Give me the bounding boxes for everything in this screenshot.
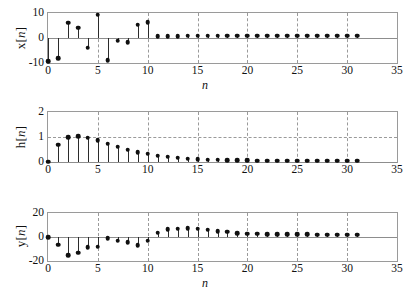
- stem-marker: [76, 134, 81, 139]
- x-axis-tick-label: 25: [292, 263, 304, 275]
- y-axis-label-y: y[n]: [13, 225, 29, 247]
- stem-marker: [106, 58, 111, 63]
- stem-marker: [325, 232, 330, 237]
- y-axis-tick-label: -20: [29, 255, 44, 267]
- stem-marker: [116, 144, 121, 149]
- stem-marker: [325, 33, 330, 38]
- x-axis-tick-label: 35: [391, 164, 403, 176]
- stem-marker: [295, 158, 300, 163]
- stem-marker: [335, 33, 340, 38]
- stem-marker: [345, 158, 350, 163]
- x-axis-tick-label: 15: [192, 263, 204, 275]
- stem-marker: [215, 229, 220, 234]
- stem-marker: [355, 232, 360, 237]
- y-axis-tick-label: 1: [38, 131, 44, 143]
- stem-marker: [116, 239, 121, 244]
- stem-marker: [305, 33, 310, 38]
- stem-marker: [46, 59, 51, 64]
- y-axis-tick-label: -10: [29, 57, 44, 69]
- stem-marker: [265, 232, 270, 237]
- panel-h: h[n] 01205101520253035 n: [0, 99, 418, 198]
- stem-marker: [295, 33, 300, 38]
- stem-marker: [275, 158, 280, 163]
- stem-line: [68, 137, 69, 162]
- stem-marker: [86, 135, 91, 140]
- stem-marker: [145, 20, 150, 25]
- x-axis-tick-label: 35: [391, 65, 403, 77]
- stem-marker: [245, 33, 250, 38]
- x-axis-tick-label: 20: [242, 263, 254, 275]
- panel-x: x[n] -1001005101520253035 n: [0, 0, 418, 99]
- stem-marker: [265, 158, 270, 163]
- x-axis-tick-label: 15: [192, 65, 204, 77]
- stem-line: [108, 144, 109, 163]
- stem-marker: [165, 34, 170, 39]
- plot-area-x: -1001005101520253035: [47, 12, 398, 64]
- stem-marker: [165, 227, 170, 232]
- x-axis-tick-label: 10: [142, 65, 154, 77]
- stem-line: [98, 140, 99, 162]
- x-axis-tick-label: 5: [95, 164, 101, 176]
- stem-marker: [225, 158, 230, 163]
- y-axis-tick-label: 2: [38, 106, 44, 118]
- stem-line: [88, 138, 89, 163]
- stem-marker: [225, 230, 230, 235]
- stem-marker: [245, 158, 250, 163]
- stem-marker: [56, 142, 61, 147]
- stem-marker: [155, 231, 160, 236]
- stem-marker: [116, 38, 121, 43]
- x-axis-tick-label: 0: [45, 65, 51, 77]
- stem-marker: [195, 157, 200, 162]
- baseline: [48, 237, 397, 238]
- stem-marker: [135, 150, 140, 155]
- stem-marker: [76, 250, 81, 255]
- stem-marker: [125, 147, 130, 152]
- stem-marker: [215, 157, 220, 162]
- stem-marker: [205, 33, 210, 38]
- x-axis-label-x: n: [202, 78, 208, 93]
- stem-marker: [145, 151, 150, 156]
- stem-marker: [275, 33, 280, 38]
- stem-marker: [265, 33, 270, 38]
- stem-marker: [355, 33, 360, 38]
- x-axis-tick-label: 20: [242, 164, 254, 176]
- stem-marker: [135, 243, 140, 248]
- y-axis-tick-label: 0: [38, 231, 44, 243]
- stem-line: [58, 145, 59, 163]
- stem-marker: [106, 236, 111, 241]
- stem-marker: [175, 34, 180, 39]
- stem-marker: [285, 33, 290, 38]
- stem-marker: [225, 33, 230, 38]
- stem-marker: [86, 45, 91, 50]
- stem-marker: [285, 158, 290, 163]
- baseline: [48, 38, 397, 39]
- stem-marker: [315, 232, 320, 237]
- x-axis-tick-label: 15: [192, 164, 204, 176]
- stem-marker: [235, 231, 240, 236]
- stem-marker: [195, 226, 200, 231]
- stem-marker: [155, 34, 160, 39]
- stem-marker: [215, 33, 220, 38]
- stem-marker: [295, 232, 300, 237]
- panel-y: y[n] -2002005101520253035 n: [0, 198, 418, 299]
- y-axis-tick-label: 0: [38, 32, 44, 44]
- stem-marker: [255, 158, 260, 163]
- y-axis-tick-label: 0: [38, 156, 44, 168]
- stem-marker: [185, 33, 190, 38]
- stem-marker: [96, 12, 101, 17]
- stem-marker: [96, 138, 101, 143]
- stem-marker: [155, 153, 160, 158]
- stem-line: [98, 15, 99, 39]
- stem-marker: [175, 226, 180, 231]
- stem-marker: [185, 226, 190, 231]
- x-axis-tick-label: 20: [242, 65, 254, 77]
- x-axis-tick-label: 5: [95, 65, 101, 77]
- stem-marker: [275, 232, 280, 237]
- plot-area-y: -2002005101520253035: [47, 212, 398, 262]
- stem-marker: [195, 33, 200, 38]
- stem-marker: [76, 25, 81, 30]
- x-axis-tick-label: 25: [292, 164, 304, 176]
- x-axis-tick-label: 10: [142, 164, 154, 176]
- stem-marker: [56, 243, 61, 248]
- stem-marker: [46, 235, 51, 240]
